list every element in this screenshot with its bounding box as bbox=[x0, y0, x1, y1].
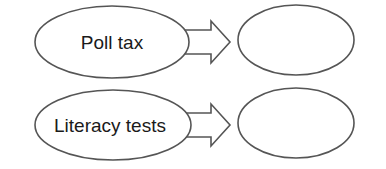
cause-effect-diagram: Poll tax Literacy tests bbox=[0, 0, 386, 169]
cause-label-1: Poll tax bbox=[81, 32, 144, 53]
diagram-row-2: Literacy tests bbox=[35, 88, 354, 160]
effect-ellipse-1[interactable] bbox=[238, 5, 354, 75]
diagram-row-1: Poll tax bbox=[35, 5, 354, 78]
effect-ellipse-2[interactable] bbox=[238, 88, 354, 158]
cause-label-2: Literacy tests bbox=[54, 115, 166, 136]
